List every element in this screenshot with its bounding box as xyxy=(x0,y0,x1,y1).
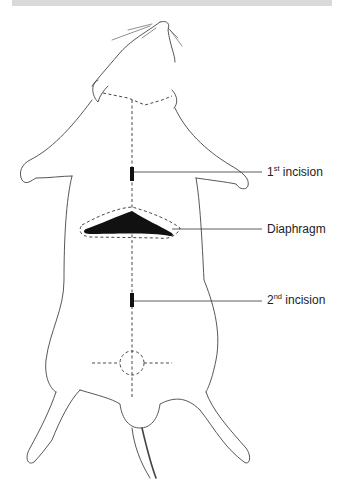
rat-illustration xyxy=(0,0,344,485)
dashed-cut-lines xyxy=(80,93,180,398)
rat-outline xyxy=(20,21,249,478)
second-incision-mark xyxy=(130,293,134,307)
label-diaphragm: Diaphragm xyxy=(267,222,326,236)
figure: 1st incision Diaphragm 2nd incision xyxy=(0,0,344,485)
diaphragm-shape xyxy=(84,211,173,236)
first-incision-mark xyxy=(130,167,134,181)
label-second-incision: 2nd incision xyxy=(267,293,325,307)
label-first-incision: 1st incision xyxy=(267,165,323,179)
